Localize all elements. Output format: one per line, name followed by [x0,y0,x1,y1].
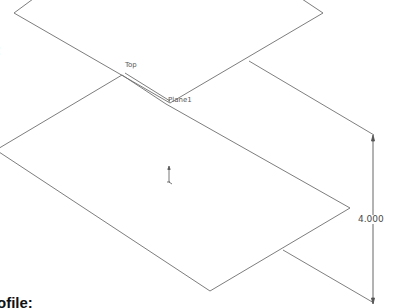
cad-graphics-viewport[interactable]: Top Plane1 4.000 [0,0,393,308]
plane-label-top[interactable]: Top [125,62,137,69]
dimension-value[interactable]: 4.000 [357,215,385,224]
plane1-outline[interactable] [14,0,323,103]
origin-triad-icon [167,166,172,184]
dimension-extension-lines [249,61,374,303]
plane-label-plane1[interactable]: Plane1 [168,97,192,104]
arrow-up-icon [372,135,375,141]
cad-scene [0,0,393,308]
arrow-down-icon [372,298,375,304]
cut-off-heading-top: : [0,42,1,57]
cut-off-heading-profile: ofile: [0,295,33,308]
